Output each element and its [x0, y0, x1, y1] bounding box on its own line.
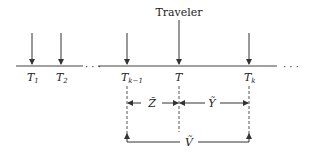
v-label: Ṽ — [185, 135, 194, 149]
ellipsis-end: · · · — [283, 61, 299, 72]
label-t1: T1 — [27, 71, 39, 85]
label-t: T — [175, 71, 184, 84]
ellipsis-mid: · · · — [85, 61, 101, 72]
y-label: Ỹ — [208, 96, 217, 110]
interarrival-diagram: · · · · · · Traveler T1 T2 Tk−1 T Tk Z̃ … — [0, 0, 309, 156]
label-t2: T2 — [56, 71, 68, 85]
traveler-label: Traveler — [155, 6, 203, 19]
z-label: Z̃ — [147, 97, 156, 110]
label-tk-1: Tk−1 — [121, 71, 143, 85]
label-tk: Tk — [244, 71, 256, 85]
